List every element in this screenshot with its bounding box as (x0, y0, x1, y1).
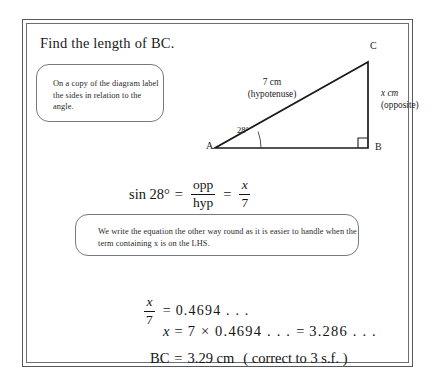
fraction-opp-over-hyp: opp hyp (191, 178, 215, 210)
right-angle-marker (358, 138, 368, 148)
fraction-denominator-7: 7 (239, 196, 250, 211)
fraction-numerator-x: x (144, 295, 154, 310)
opposite-length: x cm (381, 88, 398, 98)
fraction-numerator-x: x (240, 178, 250, 193)
x-result: 3.286 . . . (309, 323, 377, 340)
fraction-denominator-hyp: hyp (191, 196, 215, 211)
fraction-x-over-7: x 7 (239, 178, 250, 210)
equals-sign: = (163, 303, 171, 319)
vertex-label-b: B (375, 141, 382, 153)
equals-sign: = (174, 323, 182, 340)
equals-sign: = (174, 350, 182, 367)
worked-example-content: Find the length of BC. On a copy of the … (23, 20, 414, 368)
equals-sign-2: = (223, 186, 231, 203)
hypotenuse-word: (hypotenuse) (248, 89, 297, 99)
vertex-label-a: A (206, 140, 213, 152)
opposite-word: (opposite) (381, 100, 419, 110)
variable-x: x (163, 323, 169, 340)
callout-rearrange: We write the equation the other way roun… (75, 214, 359, 256)
triangle-diagram: A B C 28° 7 cm (hypotenuse) x cm (opposi… (173, 25, 413, 160)
equation-sine-lhs: sin 28° (129, 186, 170, 203)
equals-sign-2: = (296, 323, 304, 340)
final-answer-value: 3.29 cm (188, 350, 235, 367)
equals-sign: = (175, 186, 183, 203)
callout-rearrange-text: We write the equation the other way roun… (98, 226, 358, 249)
fraction-denominator-7: 7 (144, 313, 155, 328)
side-label-hypotenuse: 7 cm (hypotenuse) (220, 77, 324, 100)
fraction-x-over-7-result: x 7 (144, 295, 155, 327)
final-answer-label: BC (150, 350, 169, 367)
equation-sine-ratio: sin 28° = opp hyp = x 7 (129, 178, 253, 210)
page-title: Find the length of BC. (40, 35, 175, 52)
equation-final-answer: BC = 3.29 cm ( correct to 3 s.f. ) (150, 350, 348, 367)
fraction-numerator-opp: opp (191, 178, 215, 193)
final-answer-note: ( correct to 3 s.f. ) (243, 350, 347, 367)
callout-label-sides: On a copy of the diagram label the sides… (36, 64, 164, 122)
callout-label-sides-text: On a copy of the diagram label the sides… (53, 78, 163, 113)
sine-decimal-value: 0.4694 . . . (176, 303, 250, 319)
side-label-opposite: x cm (opposite) (381, 88, 419, 111)
page-frame: Find the length of BC. On a copy of the … (22, 19, 413, 367)
equation-solve-for-x: x = 7 × 0.4694 . . . = 3.286 . . . (163, 323, 377, 340)
x-expression: 7 × 0.4694 . . . (188, 323, 292, 340)
angle-arc-a (258, 132, 261, 148)
angle-label-28-degrees: 28° (237, 125, 249, 137)
hypotenuse-length: 7 cm (263, 77, 281, 87)
vertex-label-c: C (370, 40, 377, 52)
